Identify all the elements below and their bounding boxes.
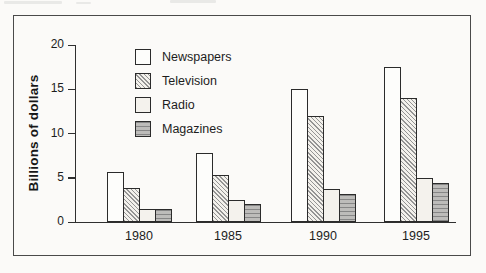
y-tick-mark [68,133,76,134]
bar-1990-magazines [339,194,356,222]
y-tick-label: 15 [30,81,64,95]
print-artifact [170,0,216,3]
bar-1985-television [212,175,229,222]
y-tick-label: 20 [30,37,64,51]
y-tick-label: 0 [30,214,64,228]
y-tick-mark [68,89,76,90]
plot-area: 051015201980198519901995 [75,45,456,223]
bar-1985-magazines [244,204,261,222]
y-tick-label: 5 [30,170,64,184]
x-tick-label: 1995 [384,229,448,243]
bar-1980-newspapers [107,172,124,222]
x-tick-label: 1990 [291,229,355,243]
y-tick-label: 10 [30,126,64,140]
legend-item-newspapers: Newspapers [135,49,231,66]
print-artifact [76,2,91,4]
y-tick-mark [68,177,76,178]
bar-1985-newspapers [196,153,213,222]
y-tick-mark [68,45,76,46]
bar-1980-television [123,188,140,222]
print-artifact [4,1,62,4]
y-tick-mark [68,222,76,223]
legend-label-magazines: Magazines [162,122,222,136]
bar-1995-television [400,98,417,222]
bar-1980-radio [139,209,156,222]
legend-item-magazines: Magazines [135,121,231,138]
legend-label-television: Television [162,74,217,88]
legend-label-newspapers: Newspapers [162,50,231,64]
legend-label-radio: Radio [162,98,195,112]
bar-1990-radio [323,189,340,222]
bar-1995-radio [416,178,433,222]
legend-swatch-radio [135,97,151,113]
legend-item-radio: Radio [135,97,231,114]
legend-item-television: Television [135,73,231,90]
scanned-chart-page: Billions of dollars 05101520198019851990… [0,0,486,273]
x-tick-label: 1985 [196,229,260,243]
bar-1990-television [307,116,324,222]
bar-1995-newspapers [384,67,401,222]
legend-swatch-magazines [135,121,151,137]
legend-swatch-newspapers [135,49,151,65]
bar-1985-radio [228,200,245,222]
legend: Newspapers Television Radio Magazines [135,49,231,145]
x-tick-label: 1980 [107,229,171,243]
legend-swatch-television [135,73,151,89]
bar-1990-newspapers [291,89,308,222]
bar-1980-magazines [155,209,172,222]
bar-1995-magazines [432,183,449,222]
